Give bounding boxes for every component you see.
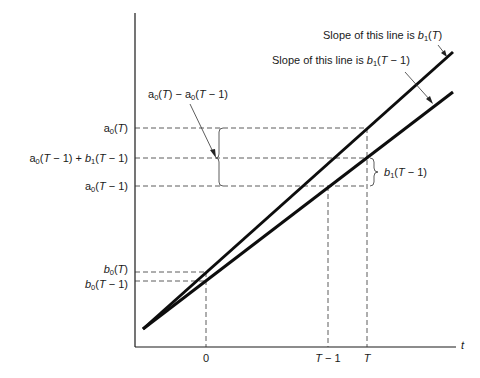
label-a0T: a0(T) [104,122,128,136]
difference-bracket [216,128,223,186]
label-diff: a0(T) − a0(T − 1) [148,88,228,102]
tick-T: T [364,352,372,364]
diff-arrow-head [210,149,216,158]
trend-update-diagram: t a0(T) a0(T − 1) + b1(T − 1) a0(T − 1) … [0,0,480,378]
x-axis-label: t [461,339,465,351]
label-slope-T-minus-1: Slope of this line is b1(T − 1) [272,54,410,68]
slope-T-arrow-head [441,50,447,57]
trend-line-T-minus-1 [143,92,453,329]
label-a0Tm1: a0(T − 1) [85,180,128,194]
tick-T-minus-1: T − 1 [315,352,340,364]
label-mid: a0(T − 1) + b1(T − 1) [29,152,128,166]
tick-0: 0 [203,352,209,364]
label-b0T: b0(T) [104,263,128,277]
slope-brace [370,158,378,186]
diff-arrow-shaft [190,104,214,154]
label-b1Tm1-brace: b1(T − 1) [384,166,427,180]
label-slope-T: Slope of this line is b1(T) [323,29,442,43]
label-b0Tm1: b0(T − 1) [85,278,128,292]
